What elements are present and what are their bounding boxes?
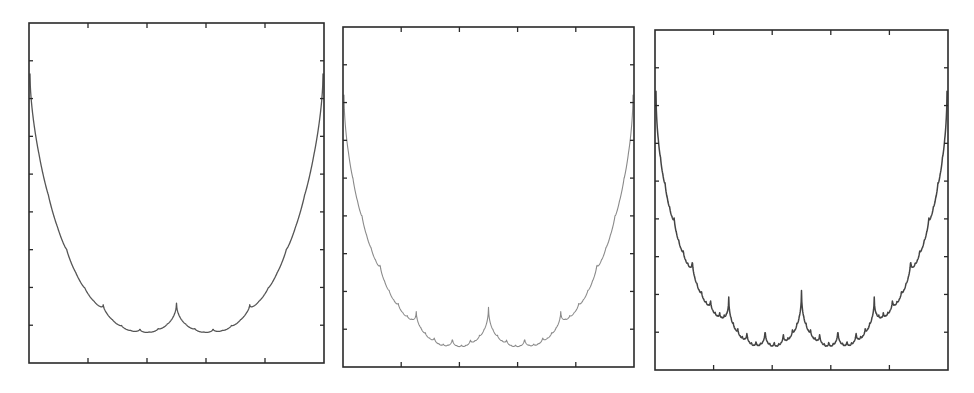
plot-area-3 — [655, 30, 948, 370]
fractal-curve — [656, 91, 947, 346]
plot-area-2 — [343, 27, 634, 367]
axes-frame — [29, 23, 324, 363]
fractal-curve — [30, 74, 323, 332]
plot-panel-1 — [29, 23, 324, 363]
plot-area-1 — [29, 23, 324, 363]
fractal-curve — [344, 95, 633, 347]
plot-panel-2 — [343, 27, 634, 367]
axes-frame — [655, 30, 948, 370]
plot-panel-3 — [655, 30, 948, 370]
